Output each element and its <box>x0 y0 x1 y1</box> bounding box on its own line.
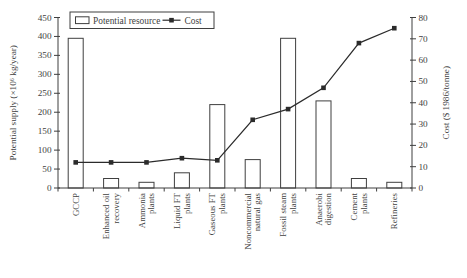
left-tick-label: 150 <box>38 126 52 136</box>
right-tick-label: 10 <box>419 162 429 172</box>
x-category-label: plants <box>146 192 156 214</box>
left-tick-label: 250 <box>38 88 52 98</box>
right-tick-label: 20 <box>419 140 429 150</box>
x-category-label: GCCP <box>71 193 81 216</box>
cost-marker <box>250 118 255 123</box>
cost-marker <box>180 156 185 161</box>
left-tick-label: 200 <box>38 107 52 117</box>
resource-bar <box>245 160 260 188</box>
x-category-label: Gaseous FT <box>207 192 217 235</box>
resource-bar <box>316 101 331 188</box>
figure: 0501001502002503003504004500102030405060… <box>0 0 467 278</box>
legend-label-cost: Cost <box>185 16 203 26</box>
x-category-label: Cement <box>349 192 359 220</box>
resource-bar <box>174 173 189 188</box>
legend: Potential resourceCost <box>70 12 214 29</box>
left-axis-title: Potential supply (×10⁶ kg/year) <box>8 45 18 160</box>
x-category-label: natural gas <box>252 192 262 231</box>
left-tick-label: 350 <box>38 50 52 60</box>
right-tick-label: 0 <box>419 183 424 193</box>
x-category-label: Ammonia <box>137 193 147 228</box>
right-tick-label: 30 <box>419 119 429 129</box>
left-tick-label: 100 <box>38 145 52 155</box>
right-tick-label: 60 <box>419 55 429 65</box>
right-axis-title: Cost ($ 1986/tonne) <box>441 66 451 140</box>
x-category-label: plants <box>217 192 227 214</box>
x-category-label: Refineries <box>389 192 399 229</box>
left-tick-label: 450 <box>38 13 52 23</box>
resource-bar <box>281 38 296 188</box>
cost-marker <box>321 86 326 91</box>
right-tick-label: 40 <box>419 98 429 108</box>
left-tick-label: 400 <box>38 31 52 41</box>
resource-bar <box>104 179 119 189</box>
line-swatch-marker-icon <box>169 18 174 23</box>
cost-marker <box>215 158 220 163</box>
x-category-label: Noncommercial <box>243 192 253 249</box>
resource-bar <box>351 179 366 189</box>
cost-marker <box>392 26 397 31</box>
resource-bar <box>139 182 154 188</box>
x-category-label: plants <box>288 192 298 214</box>
x-category-label: digestion <box>323 192 333 225</box>
right-tick-label: 80 <box>419 13 429 23</box>
x-category-label: recovery <box>111 192 121 223</box>
left-tick-label: 0 <box>47 183 52 193</box>
x-category-label: plants <box>359 192 369 214</box>
resource-bar <box>210 105 225 188</box>
cost-marker <box>357 41 362 46</box>
right-tick-label: 50 <box>419 76 429 86</box>
resource-bar <box>68 38 83 188</box>
cost-line <box>76 28 395 162</box>
chart-svg: 0501001502002503003504004500102030405060… <box>0 0 467 278</box>
left-tick-label: 300 <box>38 69 52 79</box>
x-category-label: Anaerobi <box>314 192 324 225</box>
cost-marker <box>109 160 114 165</box>
x-category-label: Enhanced oil <box>101 192 111 239</box>
cost-marker <box>73 160 78 165</box>
resource-bar <box>387 182 402 188</box>
left-tick-label: 50 <box>42 164 52 174</box>
cost-marker <box>144 160 149 165</box>
bar-swatch-icon <box>76 17 90 24</box>
x-category-label: plants <box>182 192 192 214</box>
cost-marker <box>286 107 291 112</box>
x-category-label: Fossil steam <box>278 193 288 237</box>
right-tick-label: 70 <box>419 34 429 44</box>
x-category-label: Liquid FT <box>172 192 182 229</box>
legend-label-resource: Potential resource <box>93 16 160 26</box>
